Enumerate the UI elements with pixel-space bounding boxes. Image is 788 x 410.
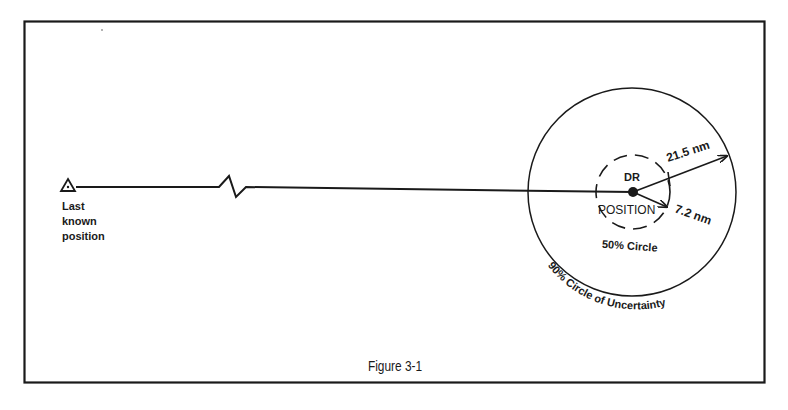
start-label-2: known [62,215,97,227]
outer-radius-label: 21.5 nm [665,138,712,165]
triangle-icon [61,179,75,191]
track-line [76,176,633,197]
inner-circle-label: 50% Circle [602,238,658,254]
start-label-3: position [62,230,105,242]
outer-radius-arrow [633,156,727,192]
dr-label: DR [624,171,640,183]
inner-radius-label: 7.2 nm [673,202,714,228]
figure-frame [25,22,765,383]
figure-caption: Figure 3-1 [348,358,442,374]
outer-circle-label: 90% Circle of Uncertainty [546,259,668,311]
speck [101,29,103,31]
start-label-1: Last [62,200,85,212]
position-label: POSITION [598,203,655,217]
dr-position-diagram: Last known position DR POSITION 50% Circ… [0,0,788,410]
